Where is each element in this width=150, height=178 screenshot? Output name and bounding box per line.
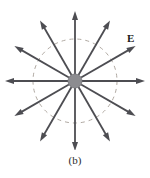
arrow-180deg-left	[5, 78, 68, 84]
arrow-300deg	[79, 87, 111, 142]
arrow-60deg	[79, 20, 111, 75]
arrow-head	[14, 46, 23, 53]
arrow-shaft	[79, 26, 107, 75]
arrow-head	[103, 132, 110, 141]
arrow-90deg-up	[72, 11, 78, 74]
arrow-120deg	[40, 20, 72, 75]
arrow-210deg	[14, 85, 69, 117]
field-line-diagram	[0, 0, 150, 150]
arrow-240deg	[40, 87, 72, 142]
arrow-head	[40, 132, 47, 141]
arrow-shaft	[43, 26, 71, 75]
arrow-head	[5, 78, 14, 84]
arrow-head	[72, 142, 78, 150]
field-vector-label: E	[127, 33, 134, 44]
figure-caption: (b)	[0, 154, 150, 166]
arrow-shaft	[79, 87, 107, 136]
arrow-head	[72, 11, 78, 20]
arrow-330deg	[81, 85, 136, 117]
charge-dot	[68, 74, 82, 88]
arrow-shaft	[81, 49, 130, 77]
arrow-30deg	[81, 46, 136, 78]
electric-field-figure: E (b)	[0, 0, 150, 178]
arrow-head	[103, 20, 110, 29]
arrow-shaft	[43, 87, 71, 136]
arrow-head	[126, 46, 135, 53]
arrow-shaft	[20, 85, 69, 113]
arrow-0deg-right	[82, 78, 145, 84]
arrow-head	[126, 109, 135, 116]
arrow-150deg	[14, 46, 69, 78]
arrow-head	[136, 78, 145, 84]
arrow-head	[40, 20, 47, 29]
point-charge	[68, 74, 82, 88]
arrow-shaft	[81, 85, 130, 113]
arrow-head	[14, 109, 23, 116]
arrow-270deg-down	[72, 88, 78, 150]
arrow-shaft	[20, 49, 69, 77]
